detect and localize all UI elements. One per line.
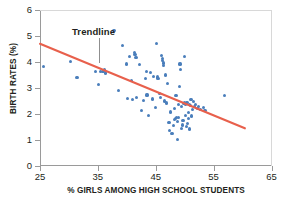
y-tick-label: 0 [18, 161, 32, 171]
y-tick-mark [35, 10, 40, 11]
data-point [204, 109, 207, 112]
data-point [181, 123, 184, 126]
data-point [184, 114, 187, 117]
data-point [104, 71, 107, 74]
y-tick-mark [35, 140, 40, 141]
y-tick-label: 5 [18, 31, 32, 41]
data-point [173, 107, 176, 110]
x-tick-label: 25 [29, 172, 51, 182]
plot-frame-top [40, 10, 272, 11]
y-tick-mark [35, 62, 40, 63]
x-tick-label: 35 [87, 172, 109, 182]
data-point [75, 76, 78, 79]
data-point [191, 108, 194, 111]
data-point [176, 120, 179, 123]
data-point [125, 62, 128, 65]
x-axis-title: % GIRLS AMONG HIGH SCHOOL STUDENTS [40, 186, 272, 195]
data-point [170, 132, 173, 135]
y-tick-label: 3 [18, 83, 32, 93]
y-axis-title: BIRTH RATES (%) [9, 19, 18, 139]
y-tick-mark [35, 36, 40, 37]
data-point [126, 97, 129, 100]
data-point [169, 110, 172, 113]
trendline-leader-line [99, 38, 100, 63]
scatter-chart: BIRTH RATES (%) % GIRLS AMONG HIGH SCHOO… [0, 0, 290, 208]
data-point [145, 93, 148, 96]
plot-frame-right [271, 10, 272, 166]
data-point [152, 75, 155, 78]
data-point [134, 56, 137, 59]
data-point [190, 114, 193, 117]
data-point [164, 73, 167, 76]
y-tick-label: 6 [18, 5, 32, 15]
data-point [183, 55, 186, 58]
data-point [172, 124, 175, 127]
x-tick-label: 45 [145, 172, 167, 182]
data-point [151, 97, 154, 100]
x-tick-label: 55 [203, 172, 225, 182]
y-tick-label: 2 [18, 109, 32, 119]
y-tick-label: 1 [18, 135, 32, 145]
y-tick-mark [35, 88, 40, 89]
x-tick-label: 65 [261, 172, 283, 182]
y-tick-label: 4 [18, 57, 32, 67]
data-point [178, 62, 181, 65]
data-point [154, 106, 157, 109]
data-point [144, 77, 147, 80]
data-point [181, 119, 184, 122]
trendline-annotation-label: Trendline [72, 26, 115, 37]
data-point [149, 71, 152, 74]
data-point [167, 121, 170, 124]
data-point [97, 83, 100, 86]
y-tick-mark [35, 114, 40, 115]
